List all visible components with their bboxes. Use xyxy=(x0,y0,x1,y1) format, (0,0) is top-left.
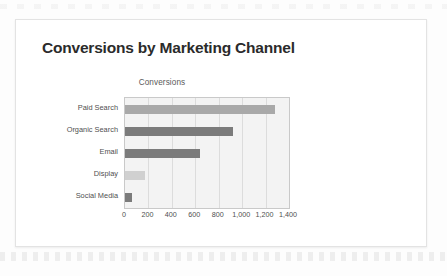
bar xyxy=(125,149,200,158)
x-tick-label: 200 xyxy=(141,211,153,218)
bar xyxy=(125,105,275,114)
bars-layer xyxy=(125,98,289,208)
x-tick-label: 1,000 xyxy=(232,211,250,218)
x-tick-label: 1,200 xyxy=(256,211,274,218)
category-label: Email xyxy=(100,148,118,155)
bar-chart: Conversions Paid SearchOrganic SearchEma… xyxy=(33,78,303,233)
gridline xyxy=(289,98,290,208)
page-title: Conversions by Marketing Channel xyxy=(42,39,295,57)
bar xyxy=(125,171,145,180)
category-label: Display xyxy=(94,170,118,177)
x-tick-label: 600 xyxy=(188,211,200,218)
x-tick-label: 1,400 xyxy=(279,211,297,218)
category-axis: Paid SearchOrganic SearchEmailDisplaySoc… xyxy=(33,97,122,209)
category-label: Social Media xyxy=(76,192,118,199)
x-tick-label: 800 xyxy=(212,211,224,218)
chart-plot-row: Paid SearchOrganic SearchEmailDisplaySoc… xyxy=(33,97,291,209)
plot-area xyxy=(124,97,290,209)
x-tick-label: 400 xyxy=(165,211,177,218)
bar xyxy=(125,193,132,202)
category-label: Organic Search xyxy=(67,126,118,133)
value-axis: 02004006008001,0001,2001,400 xyxy=(124,211,290,225)
x-tick-label: 0 xyxy=(122,211,126,218)
category-label: Paid Search xyxy=(78,104,118,111)
bar xyxy=(125,127,233,136)
slide-card: Conversions by Marketing Channel Convers… xyxy=(15,19,427,247)
chart-title: Conversions xyxy=(33,78,291,87)
